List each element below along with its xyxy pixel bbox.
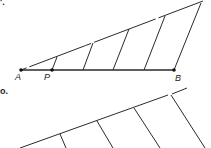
part-a-figure: A P B [14,1,203,83]
part-b-parallel-4 [171,95,205,148]
parallel-line-2 [83,43,93,70]
parallel-line-1 [52,57,57,70]
auxiliary-ray [21,1,203,70]
part-b-label: o. [0,86,8,96]
label-p: P [44,72,50,82]
parallel-line-4 [144,16,165,70]
parallel-division-diagram: '. o. A P B [0,0,211,148]
part-b-parallel-1 [60,134,66,148]
label-b: B [175,73,181,83]
part-b-parallel-3 [134,108,160,148]
part-b-parallel-2 [97,121,113,148]
parallel-line-5 [174,3,201,70]
part-b-ray-tail [172,88,187,94]
label-a: A [14,72,21,82]
part-a-label: '. [0,0,5,7]
part-b-figure [20,88,205,148]
parallel-line-3 [113,29,129,70]
part-b-ray [20,95,168,148]
point-p [50,68,54,72]
point-b [172,68,176,72]
